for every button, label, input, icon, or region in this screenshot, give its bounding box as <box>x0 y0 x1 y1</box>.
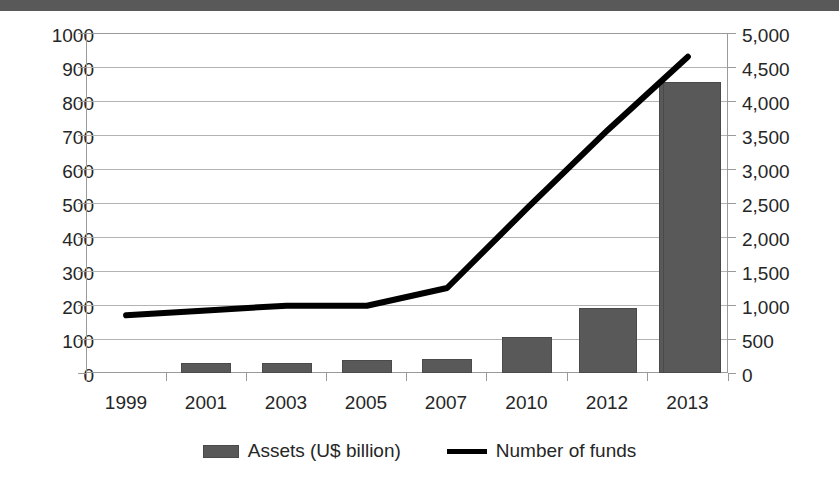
y-axis-right-tick: 3,500 <box>742 128 832 147</box>
tick-mark <box>728 373 729 381</box>
y-axis-right-tick: 2,000 <box>742 230 832 249</box>
y-axis-left-tick: 600 <box>24 162 94 181</box>
y-axis-left-tick: 200 <box>24 298 94 317</box>
chart-container: 1000 900 800 700 600 500 400 300 200 100… <box>0 0 839 504</box>
tick-mark <box>728 203 736 204</box>
tick-mark <box>78 237 86 238</box>
y-axis-left-tick: 800 <box>24 94 94 113</box>
y-axis-right-tick: 4,500 <box>742 60 832 79</box>
tick-mark <box>728 237 736 238</box>
x-axis-label-2013: 2013 <box>647 392 728 414</box>
y-axis-left-tick: 100 <box>24 332 94 351</box>
line-number-of-funds <box>126 57 688 315</box>
y-axis-right-tick: 1,000 <box>742 298 832 317</box>
y-axis-left-tick: 0 <box>24 366 94 385</box>
tick-mark <box>728 305 736 306</box>
tick-mark <box>728 101 736 102</box>
line-series-number-of-funds <box>86 33 728 373</box>
legend-line-swatch-icon <box>447 449 487 454</box>
y-axis-right-tick: 2,500 <box>742 196 832 215</box>
y-axis-right-tick: 4,000 <box>742 94 832 113</box>
y-axis-right-tick: 3,000 <box>742 162 832 181</box>
chart-legend: Assets (U$ billion) Number of funds <box>0 440 839 462</box>
tick-mark <box>78 203 86 204</box>
tick-mark <box>486 373 487 381</box>
bar-series-assets <box>0 0 839 11</box>
y-axis-left-tick: 300 <box>24 264 94 283</box>
y-axis-left-tick: 1000 <box>24 26 94 45</box>
tick-mark <box>78 101 86 102</box>
x-axis-label-2003: 2003 <box>246 392 326 414</box>
tick-mark <box>567 373 568 381</box>
tick-mark <box>728 33 736 34</box>
legend-bar-swatch-icon <box>203 445 239 458</box>
tick-mark <box>78 305 86 306</box>
y-axis-left-tick: 900 <box>24 60 94 79</box>
x-axis-label-2010: 2010 <box>486 392 567 414</box>
y-axis-left-tick: 500 <box>24 196 94 215</box>
legend-item-number-of-funds: Number of funds <box>447 440 636 462</box>
tick-mark <box>246 373 247 381</box>
y-axis-right-tick: 1,500 <box>742 264 832 283</box>
x-axis-label-2001: 2001 <box>166 392 246 414</box>
x-axis-label-2012: 2012 <box>567 392 647 414</box>
x-axis-label-1999: 1999 <box>86 392 166 414</box>
tick-mark <box>78 33 86 34</box>
tick-mark <box>78 169 86 170</box>
legend-label-assets: Assets (U$ billion) <box>248 440 401 462</box>
tick-mark <box>728 373 736 374</box>
y-axis-left-tick: 400 <box>24 230 94 249</box>
tick-mark <box>326 373 327 381</box>
tick-mark <box>728 271 736 272</box>
x-axis-label-2007: 2007 <box>406 392 486 414</box>
y-axis-right-tick: 5,000 <box>742 26 832 45</box>
y-axis-right-tick: 500 <box>742 332 832 351</box>
tick-mark <box>78 373 86 374</box>
tick-mark <box>78 339 86 340</box>
legend-label-number-of-funds: Number of funds <box>496 440 636 462</box>
tick-mark <box>86 373 87 381</box>
tick-mark <box>78 67 86 68</box>
tick-mark <box>728 339 736 340</box>
tick-mark <box>728 135 736 136</box>
tick-mark <box>728 169 736 170</box>
tick-mark <box>78 271 86 272</box>
y-axis-right-tick: 0 <box>742 366 832 385</box>
tick-mark <box>78 135 86 136</box>
tick-mark <box>647 373 648 381</box>
tick-mark <box>728 67 736 68</box>
x-axis-label-2005: 2005 <box>326 392 406 414</box>
tick-mark <box>166 373 167 381</box>
tick-mark <box>406 373 407 381</box>
legend-item-assets: Assets (U$ billion) <box>203 440 401 462</box>
y-axis-left-tick: 700 <box>24 128 94 147</box>
